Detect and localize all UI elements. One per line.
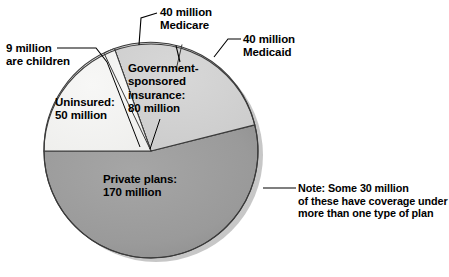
leader-line-medicaid bbox=[214, 39, 241, 57]
label-private-plans: Private plans: 170 million bbox=[103, 173, 177, 200]
label-government-sponsored-insurance: Government- sponsored insurance: 80 mill… bbox=[128, 62, 198, 115]
label-uninsured-children: 9 million are children bbox=[6, 42, 70, 69]
pie-chart-figure: 40 million Medicare 40 million Medicaid … bbox=[0, 0, 449, 277]
label-medicaid: 40 million Medicaid bbox=[243, 33, 295, 60]
label-medicare: 40 million Medicare bbox=[160, 6, 212, 33]
leader-line-medicare bbox=[139, 13, 157, 45]
annotation-overlap-note: Note: Some 30 million of these have cove… bbox=[298, 182, 448, 220]
label-uninsured: Uninsured: 50 million bbox=[55, 96, 115, 123]
